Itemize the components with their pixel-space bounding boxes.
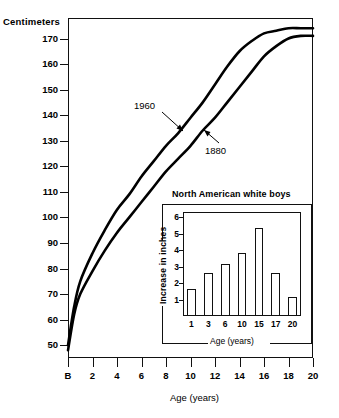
curve-label-1960: 1960 xyxy=(134,100,155,111)
main-x-axis-title: Age (years) xyxy=(0,392,339,403)
inset-bar xyxy=(238,253,247,316)
chart-canvas: Centimeters 5060708090100110120130140150… xyxy=(0,0,339,418)
inset-y-tick xyxy=(179,267,184,268)
inset-bar xyxy=(187,289,196,316)
inset-y-tick xyxy=(179,300,184,301)
leader-arrow-1880 xyxy=(204,130,211,137)
inset-bar xyxy=(204,273,213,316)
inset-bar xyxy=(255,228,264,316)
inset-y-tick xyxy=(179,234,184,235)
inset-y-tick-label: 4 xyxy=(168,246,179,255)
main-x-axis-title-text: Age (years) xyxy=(170,392,219,403)
inset-y-tick xyxy=(179,283,184,284)
inset-y-tick-label: 6 xyxy=(168,213,179,222)
inset-y-tick-label: 1 xyxy=(168,296,179,305)
inset-y-tick xyxy=(179,217,184,218)
inset-y-axis-title-text: Increase in inches xyxy=(158,227,168,304)
curve-label-1880: 1880 xyxy=(205,145,226,156)
inset-x-tick-label: 20 xyxy=(282,320,304,329)
inset-x-axis-title: Age (years) xyxy=(210,336,254,346)
inset-y-tick-label: 2 xyxy=(168,279,179,288)
inset-y-tick-label: 3 xyxy=(168,263,179,272)
inset-y-tick-label: 5 xyxy=(168,230,179,239)
inset-title: North American white boys xyxy=(172,189,291,199)
inset-bar xyxy=(221,264,230,316)
inset-bar xyxy=(288,297,297,316)
inset-y-tick xyxy=(179,250,184,251)
inset-bar xyxy=(271,273,280,316)
